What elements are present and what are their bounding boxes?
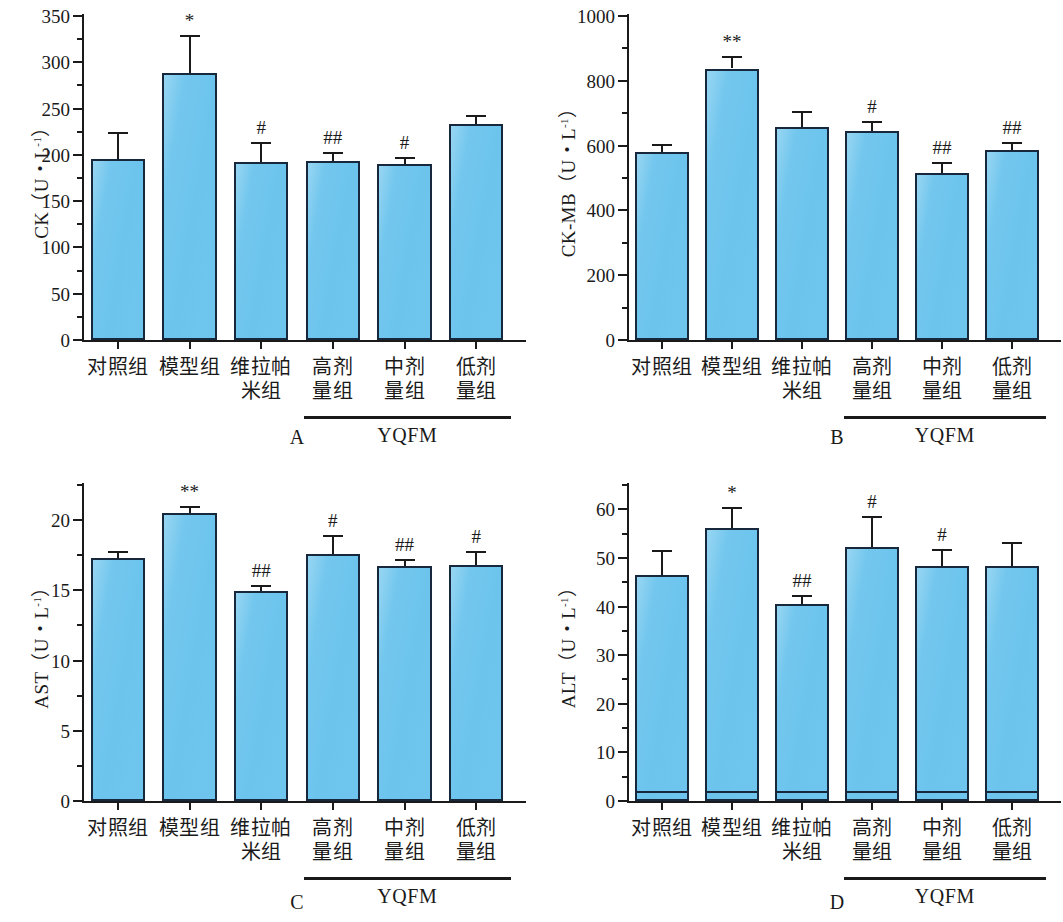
bar-c-5 xyxy=(377,566,431,801)
error-bar-cap xyxy=(722,507,742,509)
y-major-tick xyxy=(618,274,627,276)
yqfm-group-label: YQFM xyxy=(915,885,975,908)
bar-sheen xyxy=(847,549,896,799)
x-tick xyxy=(941,340,943,349)
error-bar-cap xyxy=(180,506,200,508)
x-label-line1: 低剂 xyxy=(992,816,1033,840)
bar-sheen xyxy=(451,567,501,799)
y-major-tick xyxy=(618,145,627,147)
bar-a-6 xyxy=(449,124,503,340)
y-minor-tick xyxy=(622,533,627,535)
x-label-line1: 高剂 xyxy=(852,355,893,379)
x-label-line2: 米组 xyxy=(230,380,292,404)
bar-sheen xyxy=(236,593,286,799)
x-tick xyxy=(117,801,119,810)
bar-sheen xyxy=(379,166,429,338)
y-tick-label: 5 xyxy=(61,721,71,740)
bar-sheen xyxy=(93,560,143,799)
x-tick xyxy=(332,340,334,349)
bar-b-5 xyxy=(915,173,968,340)
x-axis-label-6: 低剂量组 xyxy=(992,356,1033,403)
significance-marker: ** xyxy=(723,32,742,51)
bar-sheen xyxy=(707,530,756,799)
x-axis-label-1: 对照组 xyxy=(631,356,693,380)
y-minor-tick xyxy=(622,307,627,309)
bar-sheen xyxy=(164,515,214,799)
x-axis-line xyxy=(82,340,526,342)
significance-marker: # xyxy=(256,118,266,137)
bar-baseline-artifact xyxy=(707,791,756,793)
x-axis-line xyxy=(82,801,526,803)
error-bar-cap xyxy=(108,132,128,134)
bar-sheen xyxy=(637,154,686,338)
x-label-line2: 量组 xyxy=(852,380,893,404)
y-major-tick xyxy=(618,557,627,559)
y-minor-tick xyxy=(77,316,82,318)
x-label-line2: 量组 xyxy=(384,841,425,865)
x-label-line1: 高剂 xyxy=(312,816,353,840)
bar-c-4 xyxy=(306,554,360,801)
x-axis-label-3: 维拉帕米组 xyxy=(771,817,833,864)
y-tick-label: 250 xyxy=(42,99,71,118)
significance-marker: # xyxy=(328,511,338,530)
y-tick-label: 200 xyxy=(587,266,616,285)
bar-sheen xyxy=(987,568,1036,799)
error-bar-cap xyxy=(251,585,271,587)
yqfm-group-bracket xyxy=(304,416,510,419)
x-axis-label-1: 对照组 xyxy=(87,817,149,841)
bar-baseline-artifact xyxy=(777,791,826,793)
x-axis-label-5: 中剂量组 xyxy=(384,356,425,403)
bar-d-4 xyxy=(845,547,898,801)
x-axis-label-2: 模型组 xyxy=(701,817,763,841)
error-bar-cap xyxy=(652,144,672,146)
y-tick-label: 10 xyxy=(51,651,70,670)
y-tick-label: 1000 xyxy=(577,7,615,26)
y-minor-tick xyxy=(622,776,627,778)
bar-b-2 xyxy=(705,69,758,341)
plot-area-d: 0102030405060*#### xyxy=(627,485,1047,801)
x-label-line1: 低剂 xyxy=(992,355,1033,379)
x-label-line1: 低剂 xyxy=(456,355,497,379)
bar-b-3 xyxy=(775,127,828,340)
yqfm-group-bracket xyxy=(844,416,1046,419)
bar-sheen xyxy=(236,164,286,338)
y-major-tick xyxy=(73,293,82,295)
significance-marker: * xyxy=(727,483,737,502)
error-bar-cap xyxy=(792,595,812,597)
y-major-tick xyxy=(618,606,627,608)
y-major-tick xyxy=(73,108,82,110)
y-major-tick xyxy=(618,800,627,802)
y-axis-label: AST（U・L-1） xyxy=(26,473,53,813)
y-tick-label: 0 xyxy=(606,792,616,811)
y-minor-tick xyxy=(77,84,82,86)
x-tick xyxy=(1011,340,1013,349)
x-label-line1: 模型组 xyxy=(159,816,221,840)
y-minor-tick xyxy=(77,223,82,225)
x-label-line2: 量组 xyxy=(992,380,1033,404)
error-bar-cap xyxy=(862,121,882,123)
bar-a-1 xyxy=(91,159,145,340)
significance-marker: ## xyxy=(323,128,342,147)
x-axis-label-1: 对照组 xyxy=(87,356,149,380)
bar-baseline-artifact xyxy=(987,791,1036,793)
x-tick xyxy=(941,801,943,810)
y-tick-label: 0 xyxy=(606,331,616,350)
y-tick-label: 50 xyxy=(51,284,70,303)
x-axis-label-4: 高剂量组 xyxy=(312,356,353,403)
x-label-line1: 对照组 xyxy=(631,816,693,840)
y-major-tick xyxy=(618,339,627,341)
x-tick xyxy=(801,340,803,349)
y-major-tick xyxy=(618,751,627,753)
y-tick-label: 50 xyxy=(596,548,615,567)
x-axis-line xyxy=(627,801,1061,803)
y-tick-label: 150 xyxy=(42,192,71,211)
error-bar-cap xyxy=(932,162,952,164)
x-label-line1: 维拉帕 xyxy=(230,816,292,840)
bar-sheen xyxy=(164,75,214,338)
y-tick-label: 600 xyxy=(587,136,616,155)
y-axis-label: ALT（U・L-1） xyxy=(553,473,580,813)
bar-sheen xyxy=(379,568,429,799)
error-bar-cap xyxy=(108,551,128,553)
y-tick-label: 300 xyxy=(42,53,71,72)
plot-area-a: 050100150200250300350*#### xyxy=(82,16,512,340)
